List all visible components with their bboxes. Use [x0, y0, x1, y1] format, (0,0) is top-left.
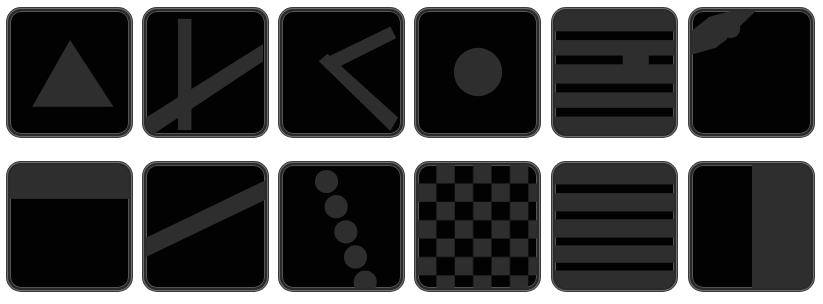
band-icon: [10, 165, 129, 288]
tile-horizontal-stripes[interactable]: [553, 163, 676, 290]
tile-diagonal-bar[interactable]: [144, 163, 267, 290]
tile-stripes-notch[interactable]: [553, 9, 676, 136]
chevron-bar-icon: [282, 11, 401, 134]
tile-triangle[interactable]: [8, 9, 131, 136]
tile-top-band[interactable]: [8, 163, 131, 290]
checker-icon: [418, 165, 537, 288]
tile-vertical-bar-with-diagonal[interactable]: [144, 9, 267, 136]
triangle-icon: [10, 11, 129, 134]
tile-bent-bar[interactable]: [280, 9, 403, 136]
bar-diagonal-icon: [146, 11, 265, 134]
tile-checkerboard[interactable]: [416, 163, 539, 290]
blob-icon: [692, 11, 811, 134]
tile-corner-blob[interactable]: [690, 9, 813, 136]
stripes-notch-icon: [555, 11, 674, 134]
tile-chain-circles[interactable]: [280, 163, 403, 290]
circle-icon: [418, 11, 537, 134]
tile-circle[interactable]: [416, 9, 539, 136]
tile-right-half[interactable]: [690, 163, 813, 290]
circles-chain-icon: [282, 165, 401, 288]
diagonal-bar-icon: [146, 165, 265, 288]
stripes-icon: [555, 165, 674, 288]
half-fill-icon: [692, 165, 811, 288]
